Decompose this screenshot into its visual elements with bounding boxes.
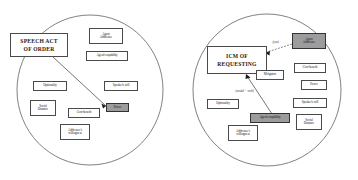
node-addressees-willingness-label: Addressee'swillingness bbox=[67, 129, 83, 136]
node-speakers-will-label: Speaker's will bbox=[112, 84, 130, 87]
node-power: Power bbox=[106, 103, 129, 112]
node-addressees-willingness: Addressee'swillingness bbox=[228, 125, 258, 141]
node-agent-addressee-label: AgentAddressee bbox=[99, 33, 113, 40]
edge-agents-capability-to-central bbox=[247, 76, 274, 117]
edge-label-modal-verb: (modal + verb) bbox=[235, 89, 254, 93]
node-optionality-label: Optionality bbox=[42, 84, 57, 87]
edge-label-you: (you) bbox=[272, 40, 279, 44]
node-social-distance-label: SocialDistance bbox=[37, 105, 49, 112]
node-addressees-willingness-label: Addressee'swillingness bbox=[235, 130, 251, 137]
right-panel-graphics bbox=[179, 0, 358, 180]
node-cost-benefit-label: Cost-benefit bbox=[76, 111, 93, 114]
node-agents-capability-label: Agent's capability bbox=[258, 116, 281, 119]
node-cost-benefit-label: Cost-benefit bbox=[302, 66, 319, 69]
node-agent-addressee: AgentAddressee bbox=[292, 33, 326, 49]
node-power-label: Power bbox=[309, 83, 319, 86]
node-social-distance-label: SocialDistance bbox=[303, 119, 315, 126]
node-speakers-will: Speaker's will bbox=[104, 81, 138, 91]
node-speakers-will: Speaker's will bbox=[293, 98, 327, 108]
node-agents-capability: Agent's capability bbox=[250, 113, 290, 123]
node-power: Power bbox=[301, 80, 327, 90]
speech-act-of-order-panel: SPEECH ACT OF ORDER AgentAddressee Agent… bbox=[0, 0, 179, 180]
left-panel-graphics bbox=[0, 0, 179, 180]
icm-of-requesting-panel: ICM OF REQUESTING (you) (modal + verb) A… bbox=[179, 0, 358, 180]
node-speakers-will-label: Speaker's will bbox=[301, 101, 319, 104]
node-agent-addressee: AgentAddressee bbox=[89, 28, 123, 44]
node-mitigators-label: Mitigators bbox=[263, 73, 277, 76]
node-mitigators: Mitigators bbox=[256, 70, 284, 80]
node-optionality: Optionality bbox=[207, 99, 239, 109]
central-node-line1: SPEECH ACT bbox=[19, 37, 58, 45]
figure-canvas: SPEECH ACT OF ORDER AgentAddressee Agent… bbox=[0, 0, 358, 180]
arrowhead-central-bottom bbox=[246, 74, 251, 79]
node-cost-benefit: Cost-benefit bbox=[294, 63, 326, 73]
central-node-line2: REQUESTING bbox=[216, 60, 257, 68]
central-node-speech-act-of-order: SPEECH ACT OF ORDER bbox=[10, 33, 68, 57]
node-agent-addressee-label: AgentAddressee bbox=[302, 38, 316, 45]
node-agents-capability-label: Agent's capability bbox=[95, 54, 118, 57]
node-power-label: Power bbox=[113, 106, 123, 109]
central-node-line1: ICM OF bbox=[216, 52, 257, 60]
node-addressees-willingness: Addressee'swillingness bbox=[60, 124, 90, 140]
node-social-distance: SocialDistance bbox=[30, 100, 56, 116]
node-social-distance: SocialDistance bbox=[296, 114, 322, 130]
edge-agent-addressee-to-central bbox=[267, 44, 292, 52]
node-cost-benefit: Cost-benefit bbox=[68, 108, 100, 118]
node-optionality: Optionality bbox=[33, 81, 67, 91]
node-optionality-label: Optionality bbox=[215, 102, 230, 105]
central-node-line2: OF ORDER bbox=[19, 45, 58, 53]
node-agents-capability: Agent's capability bbox=[86, 51, 128, 61]
